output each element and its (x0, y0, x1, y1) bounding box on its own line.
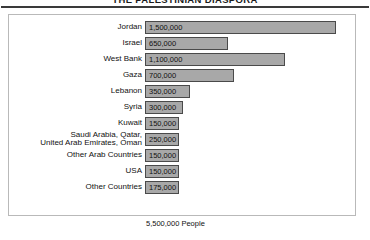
bar: 300,000 (145, 101, 183, 114)
bar-value-label: 700,000 (149, 70, 176, 81)
bar-value-label: 300,000 (149, 102, 176, 113)
total-label: 5,500,000 People (146, 219, 205, 228)
bar-value-label: 1,100,000 (149, 54, 182, 65)
bar-value-label: 1,500,000 (149, 22, 182, 33)
bar-value-label: 150,000 (149, 150, 176, 161)
bar: 250,000 (145, 133, 179, 146)
bar-row: Kuwait150,000 (0, 115, 370, 131)
category-label: Other Countries (2, 179, 142, 195)
category-label: Syria (2, 99, 142, 115)
bar-container: 150,000 (145, 149, 179, 162)
bar-container: 150,000 (145, 117, 179, 130)
bar-row: Other Countries175,000 (0, 179, 370, 195)
category-label: Israel (2, 35, 142, 51)
bar: 1,100,000 (145, 53, 285, 66)
bar-row: Syria300,000 (0, 99, 370, 115)
bar-row: Jordan1,500,000 (0, 19, 370, 35)
bar: 650,000 (145, 37, 228, 50)
title-divider (1, 6, 369, 8)
bar-value-label: 150,000 (149, 118, 176, 129)
bar-row: Gaza700,000 (0, 67, 370, 83)
category-label: Gaza (2, 67, 142, 83)
bar-container: 1,500,000 (145, 21, 336, 34)
bar-container: 150,000 (145, 165, 179, 178)
bar-row: West Bank1,100,000 (0, 51, 370, 67)
category-label: Saudi Arabia, Qatar,United Arab Emirates… (0, 131, 142, 148)
bar-value-label: 350,000 (149, 86, 176, 97)
bar-row: Other Arab Countries150,000 (0, 147, 370, 163)
bar-row: Israel650,000 (0, 35, 370, 51)
bar: 1,500,000 (145, 21, 336, 34)
category-label: Jordan (2, 19, 142, 35)
bar-rows: Jordan1,500,000Israel650,000West Bank1,1… (0, 19, 370, 195)
bar-container: 300,000 (145, 101, 183, 114)
bar: 175,000 (145, 181, 179, 194)
bar-container: 250,000 (145, 133, 179, 146)
bar-value-label: 250,000 (149, 134, 176, 145)
bar-value-label: 650,000 (149, 38, 176, 49)
bar: 150,000 (145, 149, 179, 162)
bar-value-label: 150,000 (149, 166, 176, 177)
category-label: USA (2, 163, 142, 179)
page-title: THE PALESTINIAN DIASPORA (0, 0, 370, 5)
bar: 150,000 (145, 165, 179, 178)
bar: 700,000 (145, 69, 234, 82)
bar-container: 175,000 (145, 181, 179, 194)
category-label: Kuwait (2, 115, 142, 131)
bar-container: 350,000 (145, 85, 190, 98)
bar: 150,000 (145, 117, 179, 130)
category-label: Other Arab Countries (2, 147, 142, 163)
bar-container: 1,100,000 (145, 53, 285, 66)
bar-row: USA150,000 (0, 163, 370, 179)
bar-container: 700,000 (145, 69, 234, 82)
bar-container: 650,000 (145, 37, 228, 50)
bar: 350,000 (145, 85, 190, 98)
category-label: West Bank (2, 51, 142, 67)
bar-value-label: 175,000 (149, 182, 176, 193)
category-label: Lebanon (2, 83, 142, 99)
bar-row: Saudi Arabia, Qatar,United Arab Emirates… (0, 131, 370, 147)
bar-row: Lebanon350,000 (0, 83, 370, 99)
